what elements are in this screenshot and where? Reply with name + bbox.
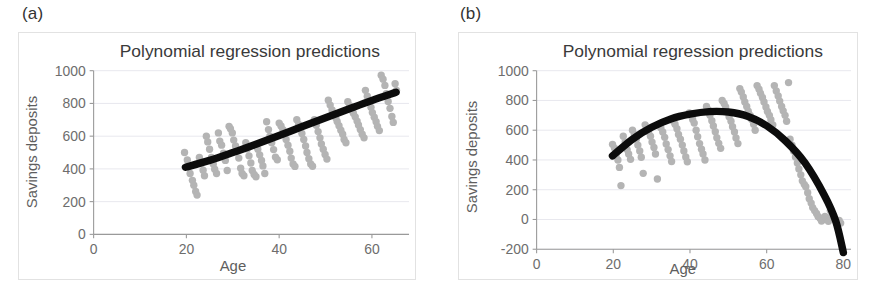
- panel-a-label: (a): [22, 4, 43, 24]
- scatter-point: [247, 159, 254, 166]
- scatter-point: [300, 136, 307, 143]
- scatter-point: [342, 139, 349, 146]
- scatter-point: [252, 173, 259, 180]
- scatter-point: [213, 170, 220, 177]
- x-tick-label: 40: [271, 241, 287, 257]
- scatter-point: [302, 142, 309, 149]
- scatter-point: [181, 149, 188, 156]
- scatter-series: [181, 72, 400, 199]
- figure-container: (a) Polynomial regression predictions020…: [0, 0, 877, 300]
- scatter-point: [391, 80, 398, 87]
- y-tick-label: 200: [62, 194, 85, 210]
- scatter-point: [270, 146, 277, 153]
- scatter-point: [303, 149, 310, 156]
- chart-title: Polynomial regression predictions: [120, 41, 380, 61]
- scatter-point: [261, 170, 268, 177]
- y-tick-label: 200: [505, 182, 528, 198]
- scatter-point: [390, 119, 397, 126]
- scatter-point: [751, 127, 758, 134]
- scatter-point: [245, 152, 252, 159]
- scatter-point: [309, 163, 316, 170]
- chart-title: Polynomial regression predictions: [563, 41, 823, 61]
- y-tick-label: 0: [521, 211, 529, 227]
- x-tick-label: 0: [90, 241, 98, 257]
- scatter-point: [785, 79, 792, 86]
- scatter-point: [215, 129, 222, 136]
- regression-curve: [613, 111, 844, 252]
- y-axis: -20002004006008001000: [498, 63, 537, 258]
- scatter-point: [224, 167, 231, 174]
- scatter-point: [636, 147, 643, 154]
- panel-a-frame: Polynomial regression predictions0200400…: [18, 32, 416, 280]
- x-tick-label: 20: [606, 256, 622, 272]
- scatter-point: [617, 182, 624, 189]
- scatter-point: [291, 163, 298, 170]
- scatter-point: [259, 162, 266, 169]
- y-axis-title: Savings deposits: [464, 101, 480, 213]
- y-tick-label: 1000: [498, 63, 529, 79]
- scatter-series: [609, 79, 845, 227]
- y-tick-label: 600: [505, 122, 528, 138]
- panel-a-chart: Polynomial regression predictions0200400…: [19, 33, 415, 279]
- scatter-point: [616, 164, 623, 171]
- scatter-point: [654, 175, 661, 182]
- scatter-point: [691, 119, 698, 126]
- scatter-point: [193, 191, 200, 198]
- scatter-point: [229, 129, 236, 136]
- panel-b: (b) Polynomial regression predictions-20…: [438, 0, 876, 300]
- scatter-point: [379, 76, 386, 83]
- scatter-point: [717, 145, 724, 152]
- panel-a: (a) Polynomial regression predictions020…: [0, 0, 438, 300]
- scatter-point: [652, 150, 659, 157]
- scatter-point: [201, 172, 208, 179]
- scatter-point: [668, 158, 675, 165]
- scatter-point: [627, 156, 634, 163]
- scatter-point: [638, 154, 645, 161]
- scatter-point: [783, 118, 790, 125]
- scatter-point: [692, 127, 699, 134]
- scatter-point: [376, 127, 383, 134]
- scatter-point: [235, 154, 242, 161]
- gridlines: [94, 71, 409, 235]
- scatter-point: [218, 141, 225, 148]
- scatter-point: [386, 105, 393, 112]
- scatter-point: [381, 82, 388, 89]
- x-tick-label: 20: [179, 241, 195, 257]
- y-tick-label: 400: [62, 161, 85, 177]
- scatter-point: [360, 134, 367, 141]
- scatter-point: [664, 146, 671, 153]
- scatter-point: [650, 144, 657, 151]
- x-axis-title: Age: [670, 261, 697, 277]
- scatter-point: [286, 148, 293, 155]
- y-axis-title: Savings deposits: [24, 96, 40, 208]
- scatter-point: [186, 170, 193, 177]
- scatter-point: [640, 170, 647, 177]
- scatter-point: [323, 155, 330, 162]
- x-axis: 0204060: [90, 234, 409, 257]
- scatter-point: [263, 118, 270, 125]
- x-tick-label: 80: [836, 256, 852, 272]
- y-tick-label: 600: [62, 128, 85, 144]
- scatter-point: [701, 156, 708, 163]
- scatter-point: [274, 156, 281, 163]
- panel-b-label: (b): [460, 4, 481, 24]
- scatter-point: [240, 172, 247, 179]
- y-tick-label: 800: [62, 95, 85, 111]
- panel-b-chart: Polynomial regression predictions-200020…: [459, 33, 857, 279]
- x-tick-label: 60: [759, 256, 775, 272]
- y-axis: 02004006008001000: [55, 63, 94, 243]
- x-tick-label: 0: [533, 256, 541, 272]
- scatter-point: [265, 126, 272, 133]
- panel-b-frame: Polynomial regression predictions-200020…: [458, 32, 858, 280]
- scatter-point: [190, 182, 197, 189]
- scatter-point: [734, 140, 741, 147]
- y-tick-label: 0: [78, 226, 86, 242]
- y-tick-label: 400: [505, 152, 528, 168]
- x-axis-title: Age: [220, 258, 247, 274]
- y-tick-label: 800: [505, 92, 528, 108]
- scatter-point: [661, 134, 668, 141]
- y-tick-label: -200: [501, 241, 529, 257]
- x-tick-label: 60: [364, 241, 380, 257]
- scatter-point: [694, 133, 701, 140]
- scatter-point: [206, 146, 213, 153]
